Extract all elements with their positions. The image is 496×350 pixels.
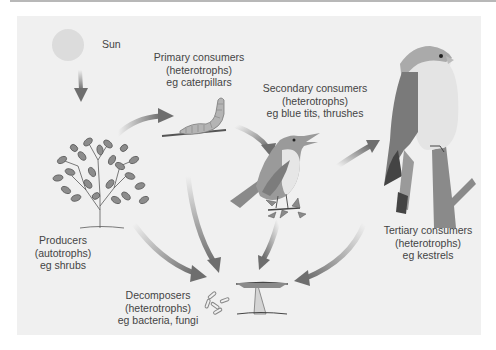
- sun-icon: [52, 29, 84, 61]
- secondary-type: (heterotrophs): [260, 95, 370, 108]
- kestrel-icon: [384, 46, 476, 228]
- decomposers-label: Decomposers (heterotrophs) eg bacteria, …: [114, 289, 202, 327]
- decomposers-type: (heterotrophs): [114, 302, 202, 315]
- food-chain-diagram: [0, 0, 496, 350]
- arrow-secondary-to-tertiary: [338, 140, 380, 166]
- producers-title: Producers: [30, 234, 96, 247]
- arrow-sun-to-producers: [74, 70, 88, 102]
- mushroom-icon: [236, 283, 288, 315]
- primary-consumers-label: Primary consumers (heterotrophs) eg cate…: [150, 51, 248, 89]
- decomposers-example: eg bacteria, fungi: [114, 314, 202, 327]
- tertiary-type: (heterotrophs): [378, 237, 478, 250]
- arrow-tertiary-to-decomposers: [294, 224, 364, 286]
- sun-label: Sun: [102, 38, 121, 51]
- tertiary-consumers-label: Tertiary consumers (heterotrophs) eg kes…: [378, 224, 478, 262]
- arrow-secondary-to-decomposers: [258, 222, 278, 270]
- secondary-title: Secondary consumers: [260, 82, 370, 95]
- primary-type: (heterotrophs): [150, 64, 248, 77]
- shrub-icon: [53, 136, 150, 228]
- secondary-example: eg blue tits, thrushes: [260, 107, 370, 120]
- bacteria-icon: [205, 291, 230, 314]
- primary-example: eg caterpillars: [150, 76, 248, 89]
- arrow-primary-to-decomposers: [188, 176, 221, 273]
- tertiary-example: eg kestrels: [378, 249, 478, 262]
- arrow-producers-to-primary: [118, 108, 174, 134]
- secondary-consumers-label: Secondary consumers (heterotrophs) eg bl…: [260, 82, 370, 120]
- primary-title: Primary consumers: [150, 51, 248, 64]
- producers-label: Producers (autotrophs) eg shrubs: [30, 234, 96, 272]
- tertiary-title: Tertiary consumers: [378, 224, 478, 237]
- arrow-producers-to-decomposers: [134, 224, 207, 282]
- producers-type: (autotrophs): [30, 247, 96, 260]
- decomposers-title: Decomposers: [114, 289, 202, 302]
- producers-example: eg shrubs: [30, 259, 96, 272]
